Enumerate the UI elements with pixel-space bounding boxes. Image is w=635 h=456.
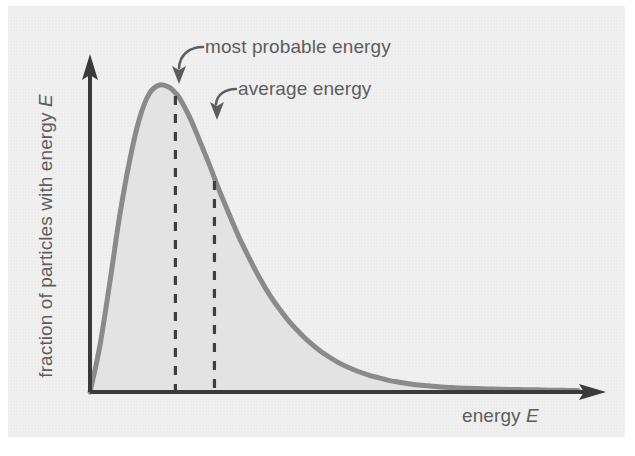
most-probable-energy-leader <box>172 47 203 84</box>
y-axis <box>82 54 98 392</box>
y-axis-label-symbol: E <box>35 94 56 107</box>
x-axis-label-symbol: E <box>526 405 539 426</box>
average-energy-leader <box>210 89 236 120</box>
curve-shaded-area <box>90 85 578 392</box>
figure-container: fraction of particles with energy E ener… <box>0 0 635 456</box>
y-axis-label-text: fraction of particles with energy <box>35 112 56 377</box>
annotation-average-energy: average energy <box>238 78 371 100</box>
annotation-most-probable-energy: most probable energy <box>205 36 391 58</box>
x-axis-label: energy E <box>462 405 539 427</box>
distribution-plot <box>0 0 635 456</box>
y-axis-label: fraction of particles with energy E <box>35 86 57 386</box>
x-axis-label-text: energy <box>462 405 521 426</box>
